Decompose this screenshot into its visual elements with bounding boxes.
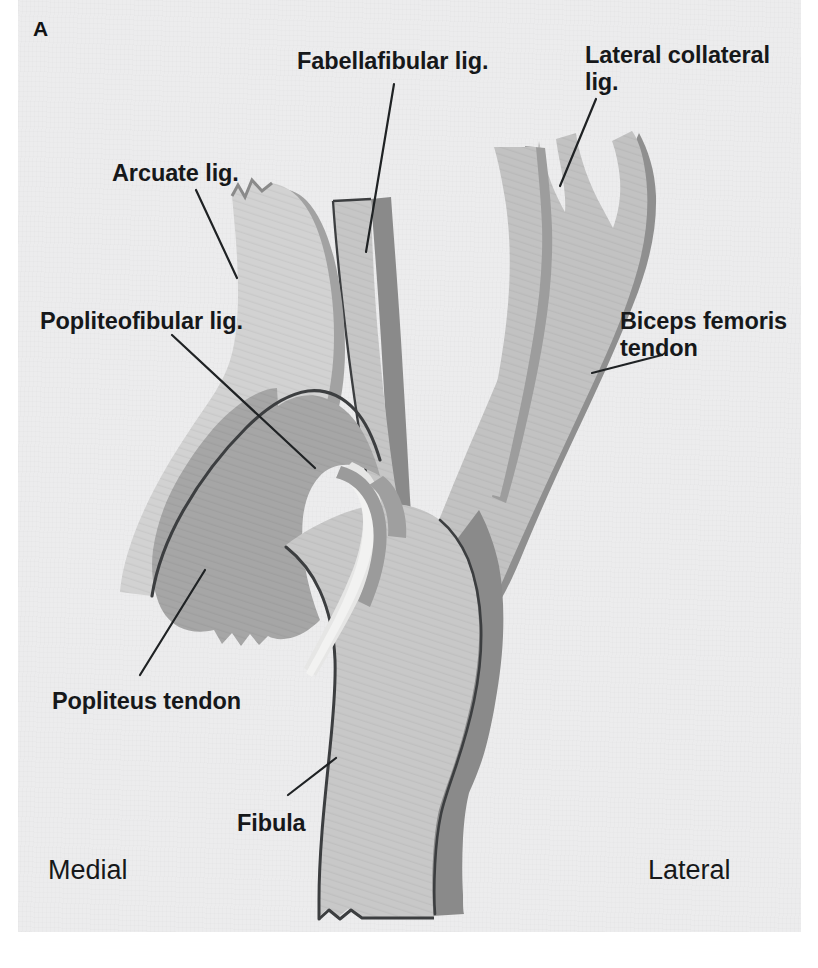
label-popliteus-tendon: Popliteus tendon xyxy=(52,688,241,715)
anatomical-illustration xyxy=(0,0,818,968)
leader-arcuate xyxy=(196,190,237,278)
label-biceps-femoris-tendon: Biceps femoris tendon xyxy=(620,308,787,363)
fibula-shape xyxy=(286,504,503,919)
orientation-lateral: Lateral xyxy=(648,855,731,886)
label-popliteofibular-lig: Popliteofibular lig. xyxy=(40,308,243,335)
label-fabellafibular-lig: Fabellafibular lig. xyxy=(297,48,488,75)
figure-root: A Arcuate lig. Popliteofibular lig. Popl… xyxy=(0,0,818,968)
label-arcuate-lig: Arcuate lig. xyxy=(112,160,239,187)
label-lateral-collateral-lig: Lateral collateral lig. xyxy=(585,42,770,97)
orientation-medial: Medial xyxy=(48,855,128,886)
label-fibula: Fibula xyxy=(237,810,306,837)
panel-letter-a: A xyxy=(33,17,48,41)
